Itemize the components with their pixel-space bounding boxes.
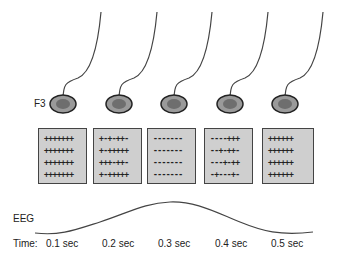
time-label: Time: xyxy=(13,238,38,249)
electrode-3-icon xyxy=(161,95,187,113)
electrode-2-icon xyxy=(106,95,132,113)
wire-5 xyxy=(285,12,323,100)
time-tick-2: 0.2 sec xyxy=(102,238,134,249)
charge-box-5: ++++++ ++++++ ++++++ ++++++ xyxy=(262,128,314,184)
charge-box-4: ----+++ --+-++- ---+-++ -+---+- xyxy=(204,128,253,184)
diagram-art xyxy=(0,0,337,254)
charge-row: +++++++ xyxy=(44,170,86,179)
electrode-wires xyxy=(63,12,323,100)
charge-row: +-+++++ xyxy=(99,170,141,179)
charge-row: ------- xyxy=(153,146,195,155)
time-tick-4: 0.4 sec xyxy=(215,238,247,249)
time-tick-3: 0.3 sec xyxy=(158,238,190,249)
charge-row: ++++++ xyxy=(268,134,313,143)
charge-row: ++++++ xyxy=(268,158,313,167)
charge-row: +++++++ xyxy=(44,158,86,167)
wire-3 xyxy=(174,12,212,100)
electrode-5-icon xyxy=(272,95,298,113)
charge-row: -+---+- xyxy=(210,170,252,179)
charge-row: ++++++ xyxy=(268,170,313,179)
charge-box-2: +-+-++- +-+++++ +++-++- +-+++++ xyxy=(93,128,142,184)
electrode-1-icon xyxy=(50,95,76,113)
charge-row: ---+-++ xyxy=(210,158,252,167)
wire-4 xyxy=(230,12,268,100)
charge-row: --+-++- xyxy=(210,146,252,155)
wire-1 xyxy=(63,12,101,100)
charge-row: +++++++ xyxy=(44,134,86,143)
charge-row: ----+++ xyxy=(210,134,252,143)
charge-row: ------- xyxy=(153,134,195,143)
eeg-waveform xyxy=(35,202,313,234)
eeg-label: EEG xyxy=(13,213,34,224)
charge-row: +++-++- xyxy=(99,158,141,167)
charge-row: +++++++ xyxy=(44,146,86,155)
time-tick-5: 0.5 sec xyxy=(271,238,303,249)
charge-row: +-+-++- xyxy=(99,134,141,143)
charge-row: ------- xyxy=(153,158,195,167)
electrode-4-icon xyxy=(217,95,243,113)
electrodes xyxy=(50,95,298,113)
charge-row: +-+++++ xyxy=(99,146,141,155)
wire-2 xyxy=(119,12,157,100)
charge-row: ++++++ xyxy=(268,146,313,155)
charge-box-1: +++++++ +++++++ +++++++ +++++++ xyxy=(38,128,87,184)
electrode-label-f3: F3 xyxy=(34,98,46,109)
charge-row: ------- xyxy=(153,170,195,179)
time-tick-1: 0.1 sec xyxy=(46,238,78,249)
charge-box-3: ------- ------- ------- ------- xyxy=(147,128,196,184)
